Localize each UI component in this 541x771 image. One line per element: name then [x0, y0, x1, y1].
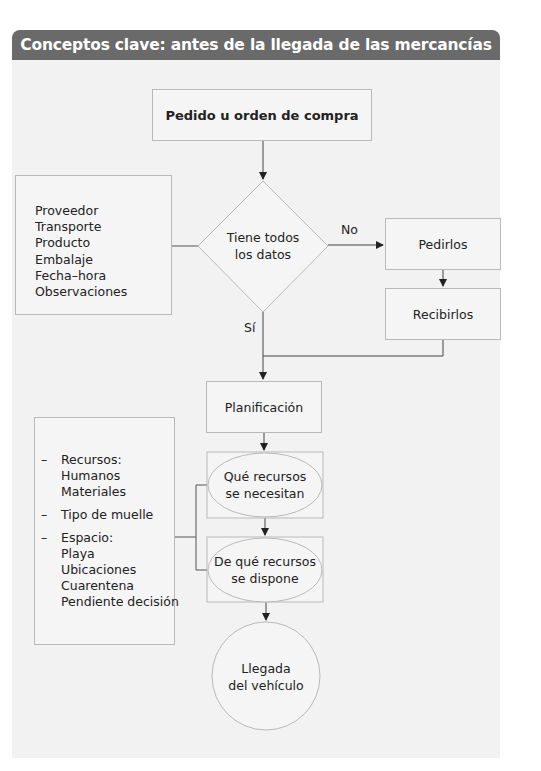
dock-type-group: –Tipo de muelle — [41, 507, 174, 523]
space-item: Pendiente decisión — [41, 594, 174, 610]
planning-label: Planificación — [225, 400, 303, 415]
resources-group: –Recursos: Humanos Materiales — [41, 452, 174, 500]
order-box: Pedido u orden de compra — [152, 89, 372, 141]
required-data-box: Proveedor Transporte Producto Embalaje F… — [15, 175, 172, 315]
request-box: Pedirlos — [385, 218, 501, 270]
space-item: Playa — [41, 546, 174, 562]
data-item: Proveedor — [35, 203, 171, 219]
receive-label: Recibirlos — [413, 307, 473, 322]
space-item: Ubicaciones — [41, 562, 174, 578]
yes-edge-label: Sí — [244, 320, 255, 335]
order-label: Pedido u orden de compra — [165, 108, 358, 123]
arrival-label: Llegada del vehículo — [212, 660, 320, 694]
needed-label: Qué recursos se necesitan — [207, 468, 323, 502]
data-item: Fecha–hora — [35, 268, 171, 284]
available-label: De qué recursos se dispone — [207, 553, 323, 587]
dash-bullet: – — [41, 507, 61, 523]
data-item: Observaciones — [35, 284, 171, 300]
data-item: Producto — [35, 235, 171, 251]
request-label: Pedirlos — [419, 237, 468, 252]
space-item: Cuarentena — [41, 578, 174, 594]
decision-label: Tiene todos los datos — [213, 229, 313, 263]
resource-item: Materiales — [41, 484, 174, 500]
planning-box: Planificación — [206, 381, 322, 433]
space-group: –Espacio: Playa Ubicaciones Cuarentena P… — [41, 530, 174, 610]
dash-bullet: – — [41, 452, 61, 468]
data-item: Transporte — [35, 219, 171, 235]
receive-box: Recibirlos — [385, 288, 501, 340]
dash-bullet: – — [41, 530, 61, 546]
resource-item: Humanos — [41, 468, 174, 484]
no-edge-label: No — [341, 222, 358, 237]
data-item: Embalaje — [35, 252, 171, 268]
resources-box: –Recursos: Humanos Materiales –Tipo de m… — [34, 417, 175, 645]
